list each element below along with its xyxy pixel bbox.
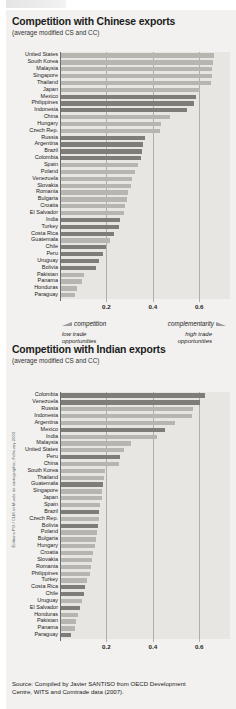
bar — [61, 626, 75, 630]
bar-label: Romania — [2, 564, 58, 570]
bar — [61, 599, 82, 603]
bar — [61, 293, 75, 297]
bar — [61, 266, 96, 270]
bar-label: South Korea — [2, 468, 58, 474]
bar-label: Czech Rep. — [2, 516, 58, 522]
bar — [61, 592, 84, 596]
bar — [61, 149, 142, 153]
chart-indian-exports: Competition with Indian exports (average… — [0, 344, 236, 364]
bar — [61, 489, 102, 493]
bar-label: Malaysia — [2, 66, 58, 72]
complementarity-arrow-icon — [216, 322, 226, 326]
bar — [61, 108, 187, 112]
bar — [61, 496, 102, 500]
bar — [61, 393, 205, 397]
bar — [61, 400, 200, 404]
bar-label: Uruguay — [2, 258, 58, 264]
source-note: Source: Compiled by Javier SANTISO from … — [12, 680, 232, 695]
x-tick-label: 0.2 — [102, 303, 111, 310]
bar-label: Spain — [2, 502, 58, 508]
bar — [61, 476, 104, 480]
bar — [61, 503, 100, 507]
bar — [61, 517, 99, 521]
bar — [61, 510, 99, 514]
bar-label: Indonesia — [2, 413, 58, 419]
bar — [61, 469, 105, 473]
bar-label: Turkey — [2, 577, 58, 583]
bar — [61, 232, 114, 236]
bar-label: Japan — [2, 495, 58, 501]
bar-label: Argentina — [2, 420, 58, 426]
bar — [61, 88, 200, 92]
bar — [61, 606, 80, 610]
bar-label: Bolivia — [2, 265, 58, 271]
bar — [61, 129, 160, 133]
bar-label: Philippines — [2, 100, 58, 106]
bar-label: Panama — [2, 278, 58, 284]
bar — [61, 122, 161, 126]
bar-label: Honduras — [2, 285, 58, 291]
bar-label: Chile — [2, 244, 58, 250]
bar — [61, 279, 82, 283]
bar-label: Colombia — [2, 392, 58, 398]
bar — [61, 435, 157, 439]
bar — [61, 238, 110, 242]
competition-arrow-icon — [62, 322, 72, 326]
bar — [61, 225, 119, 229]
bar-label: Russia — [2, 135, 58, 141]
scan-artifact — [6, 0, 66, 8]
x-tick-label: 0.2 — [102, 643, 111, 650]
bar-label: Brazil — [2, 509, 58, 515]
bar-label: Slovakia — [2, 557, 58, 563]
note-high-trade: high tradeopportunities — [178, 331, 212, 345]
bar-label: Poland — [2, 529, 58, 535]
bar-label: Guatemala — [2, 481, 58, 487]
bar-label: Venezuela — [2, 399, 58, 405]
bar — [61, 482, 103, 486]
bar-label: Costa Rica — [2, 231, 58, 237]
note-low-trade: low tradeopportunities — [62, 331, 96, 345]
bar — [61, 170, 135, 174]
bar-label: United States — [2, 447, 58, 453]
bar — [61, 524, 98, 528]
x-tick-label: 0.6 — [195, 303, 204, 310]
bar — [61, 273, 84, 277]
annotation-competition: competition — [74, 320, 106, 327]
bar — [61, 184, 131, 188]
bar-label: Paraguay — [2, 292, 58, 298]
bar — [61, 428, 165, 432]
bar — [61, 421, 175, 425]
bar — [61, 245, 106, 249]
bar-label: Chile — [2, 591, 58, 597]
bar — [61, 455, 120, 459]
bar-label: Turkey — [2, 224, 58, 230]
bar — [61, 197, 127, 201]
bar — [61, 204, 125, 208]
bar-label: Peru — [2, 454, 58, 460]
plot-area: ColombiaVenezuelaRussiaIndonesiaArgentin… — [0, 392, 236, 641]
bar — [61, 136, 145, 140]
bar — [61, 67, 212, 71]
bar-label: Paraguay — [2, 632, 58, 638]
bar-label: Pakistan — [2, 272, 58, 278]
bar-label: China — [2, 461, 58, 467]
bar-label: Hungary — [2, 121, 58, 127]
bar-label: Indonesia — [2, 107, 58, 113]
x-tick-label: 0.6 — [195, 643, 204, 650]
bar-label: Guatemala — [2, 237, 58, 243]
bar — [61, 156, 141, 160]
bar — [61, 163, 138, 167]
bar-label: Bolivia — [2, 523, 58, 529]
bar — [61, 115, 170, 119]
source-line-2: Centre, WITS and Comtrade data (2007). — [12, 688, 232, 696]
bar-label: Croatia — [2, 203, 58, 209]
bar-label: Russia — [2, 406, 58, 412]
bar-label: Peru — [2, 251, 58, 257]
bar-label: Brazil — [2, 148, 58, 154]
bar — [61, 286, 77, 290]
bar — [61, 211, 124, 215]
grid-line — [199, 392, 200, 642]
bar-label: Singapore — [2, 73, 58, 79]
bar-label: India — [2, 434, 58, 440]
bar-label: Venezuela — [2, 176, 58, 182]
